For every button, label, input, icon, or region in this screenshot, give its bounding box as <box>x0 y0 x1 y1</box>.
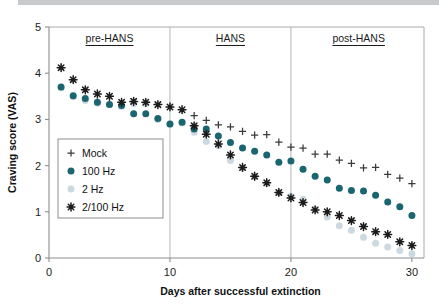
legend-label-2-hz: 2 Hz <box>82 183 104 195</box>
series-mock <box>191 112 416 187</box>
legend-label-2-100-hz: 2/100 Hz <box>82 201 124 213</box>
data-point-circle <box>396 203 403 210</box>
data-point-plus <box>239 128 246 135</box>
data-point-circle <box>263 151 270 158</box>
data-point-circle <box>275 159 282 166</box>
data-point-plus <box>312 150 319 157</box>
x-axis-title: Days after successful extinction <box>160 285 320 297</box>
data-point-asterisk <box>239 164 247 172</box>
data-point-asterisk <box>335 212 343 220</box>
data-point-circle <box>227 139 234 146</box>
data-point-asterisk <box>408 242 416 250</box>
data-point-asterisk <box>299 199 307 207</box>
craving-score-scatter-chart: 0123450102030Days after successful extin… <box>0 0 439 304</box>
data-point-asterisk <box>106 92 114 100</box>
data-point-circle <box>300 166 307 173</box>
data-point-circle <box>348 187 355 194</box>
phase-label-pre-hans: pre-HANS <box>86 32 134 44</box>
data-point-asterisk <box>311 206 319 214</box>
y-tick-label-0: 0 <box>35 252 41 264</box>
legend-label-100-hz: 100 Hz <box>82 165 115 177</box>
data-point-circle <box>154 115 161 122</box>
y-tick-label-2: 2 <box>35 160 41 172</box>
data-point-plus <box>227 123 234 130</box>
scan-edge-band <box>0 0 439 5</box>
data-point-asterisk <box>251 172 259 180</box>
data-point-asterisk <box>93 90 101 98</box>
data-point-plus <box>299 144 306 151</box>
legend: Mock100 Hz2 Hz2/100 Hz <box>58 139 163 218</box>
data-point-plus <box>215 121 222 128</box>
data-point-circle <box>82 95 89 102</box>
data-point-asterisk <box>81 86 89 94</box>
data-point-circle <box>215 133 222 140</box>
data-point-plus <box>396 174 403 181</box>
data-point-circle <box>336 185 343 192</box>
data-point-circle <box>70 92 77 99</box>
data-point-circle <box>166 121 173 128</box>
data-point-asterisk <box>57 64 65 72</box>
scan-edge-gap <box>0 0 18 5</box>
data-point-asterisk <box>154 101 162 109</box>
data-point-asterisk <box>178 106 186 114</box>
data-point-asterisk <box>263 179 271 187</box>
data-point-plus <box>372 164 379 171</box>
phase-label-post-hans: post-HANS <box>332 32 385 44</box>
data-point-circle <box>360 234 367 241</box>
y-axis-title: Craving score (VAS) <box>6 92 18 193</box>
x-tick-label-0: 0 <box>46 266 52 278</box>
data-point-circle <box>68 186 75 193</box>
data-point-asterisk <box>118 98 126 106</box>
data-point-circle <box>360 188 367 195</box>
data-point-circle <box>106 101 113 108</box>
data-point-asterisk <box>275 188 283 196</box>
data-point-circle <box>203 138 210 145</box>
data-point-circle <box>408 250 415 257</box>
data-point-circle <box>384 243 391 250</box>
data-point-circle <box>179 119 186 126</box>
data-point-circle <box>324 176 331 183</box>
data-point-plus <box>336 156 343 163</box>
data-point-circle <box>239 145 246 152</box>
data-point-plus <box>384 171 391 178</box>
data-point-circle <box>384 199 391 206</box>
phase-label-hans: HANS <box>216 32 245 44</box>
data-point-plus <box>360 164 367 171</box>
data-point-circle <box>396 247 403 254</box>
data-point-asterisk <box>348 217 356 225</box>
data-point-plus <box>348 160 355 167</box>
data-point-plus <box>287 144 294 151</box>
data-point-circle <box>408 212 415 219</box>
y-tick-label-5: 5 <box>35 21 41 33</box>
data-point-asterisk <box>287 194 295 202</box>
data-point-asterisk <box>166 103 174 111</box>
data-point-asterisk <box>202 130 210 138</box>
data-point-circle <box>251 148 258 155</box>
data-point-plus <box>203 117 210 124</box>
data-point-plus <box>263 131 270 138</box>
data-point-asterisk <box>67 203 75 211</box>
legend-label-mock: Mock <box>82 147 108 159</box>
data-point-asterisk <box>142 98 150 106</box>
data-point-circle <box>94 99 101 106</box>
data-point-circle <box>68 168 75 175</box>
data-point-plus <box>191 112 198 119</box>
data-point-asterisk <box>190 122 198 130</box>
y-tick-label-4: 4 <box>35 67 41 79</box>
x-tick-label-10: 10 <box>164 266 176 278</box>
figure-canvas: 0123450102030Days after successful extin… <box>0 0 439 304</box>
data-point-asterisk <box>227 151 235 159</box>
data-point-asterisk <box>372 228 380 236</box>
data-point-asterisk <box>323 208 331 216</box>
data-point-asterisk <box>69 76 77 84</box>
data-point-circle <box>130 110 137 117</box>
data-point-asterisk <box>360 223 368 231</box>
data-point-circle <box>372 240 379 247</box>
data-point-asterisk <box>214 140 222 148</box>
data-point-circle <box>348 227 355 234</box>
data-point-plus <box>324 150 331 157</box>
data-point-plus <box>408 180 415 187</box>
data-point-plus <box>275 138 282 145</box>
x-tick-label-30: 30 <box>406 266 418 278</box>
data-point-circle <box>142 110 149 117</box>
